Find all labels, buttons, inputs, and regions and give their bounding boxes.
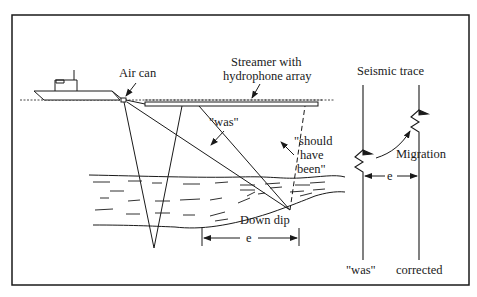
migration-label: Migration [396,147,447,161]
trace-was [355,85,372,260]
trace-corrected [411,85,428,260]
air-can-arrow [126,83,136,96]
layer-hatching [93,181,325,221]
was-ray-label: "was" [209,115,239,129]
should-have-been-line1: "should [294,134,333,148]
streamer-label-line2: hydrophone array [223,69,312,83]
streamer-label-line1: Streamer with [231,55,302,69]
trace-was-label: "was" [346,263,376,277]
seismic-trace-title: Seismic trace [357,64,424,78]
seismic-migration-diagram: Air can Streamer with hydrophone array "… [0,0,477,297]
was-ray-arrow [211,131,224,145]
should-have-been-line2: have [300,148,324,162]
trace-offset-e-label: e [387,169,393,183]
down-dip-label: Down dip [240,213,290,227]
should-have-been-arrow [281,142,294,155]
streamer [145,102,318,106]
streamer-arrow [252,84,260,98]
should-have-been-line3: been" [297,162,326,176]
trace-corrected-label: corrected [396,263,443,277]
air-can-label: Air can [119,66,157,80]
ship-icon [34,70,123,100]
offset-e-label: e [246,231,252,245]
